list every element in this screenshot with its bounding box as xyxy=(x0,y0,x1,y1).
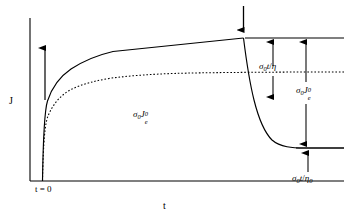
viscous-bottom-label: σ0t/η0 xyxy=(292,174,312,183)
J-subscript: e xyxy=(308,95,311,102)
sigma-subscript: 0 xyxy=(137,113,140,120)
J-subscript: e xyxy=(145,119,148,126)
retarded-elastic-label: σ0Je0 xyxy=(133,110,145,119)
y-axis-label: J xyxy=(9,96,13,106)
J-superscript: 0 xyxy=(308,87,311,94)
creep-recovery-figure: J t t = 0 σ0Je0 σ0t/η σ0Je0 σ0t/η0 xyxy=(0,0,348,221)
origin-tick-label: t = 0 xyxy=(35,185,52,194)
sigma-subscript: 0 xyxy=(296,177,299,184)
sigma-subscript: 0 xyxy=(300,89,303,96)
plot-canvas xyxy=(0,0,348,221)
viscous-top-label: σ0t/η xyxy=(259,62,276,71)
eta-glyph: η xyxy=(272,61,276,71)
x-axis-label: t xyxy=(163,201,166,211)
eta-subscript: 0 xyxy=(309,177,312,184)
recovery-curve xyxy=(244,38,345,148)
recoverable-label: σ0Je0 xyxy=(296,86,308,95)
J-superscript: 0 xyxy=(145,111,148,118)
sigma-subscript: 0 xyxy=(263,65,266,72)
